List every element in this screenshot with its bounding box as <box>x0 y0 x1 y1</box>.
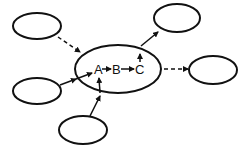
node-left <box>13 78 61 104</box>
label-C: C <box>135 62 144 77</box>
edge-central-to-A-left <box>76 73 92 79</box>
node-bottom <box>59 116 107 144</box>
label-B: B <box>112 62 121 77</box>
edge-bottom-to-central <box>90 96 100 116</box>
flow-diagram: A B C <box>0 0 249 151</box>
node-right <box>189 56 237 84</box>
node-top-right <box>154 4 200 32</box>
edge-central-to-A-bottom <box>99 78 100 93</box>
node-top-left <box>13 13 61 39</box>
edge-topleft-to-central <box>58 37 80 52</box>
edge-left-to-central <box>60 79 76 85</box>
edge-central-to-topright <box>141 32 158 46</box>
label-A: A <box>94 62 103 77</box>
